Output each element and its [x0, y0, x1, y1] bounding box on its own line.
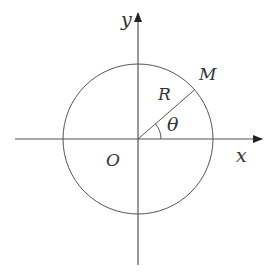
radius-label: R	[157, 84, 171, 104]
point-label: M	[198, 64, 217, 84]
x-axis-label: x	[236, 144, 247, 166]
angle-label: θ	[167, 113, 179, 135]
origin-label: O	[106, 150, 120, 170]
y-axis-label: y	[120, 8, 132, 30]
polar-diagram: y x O R M θ	[0, 0, 275, 280]
angle-arc	[155, 124, 161, 139]
